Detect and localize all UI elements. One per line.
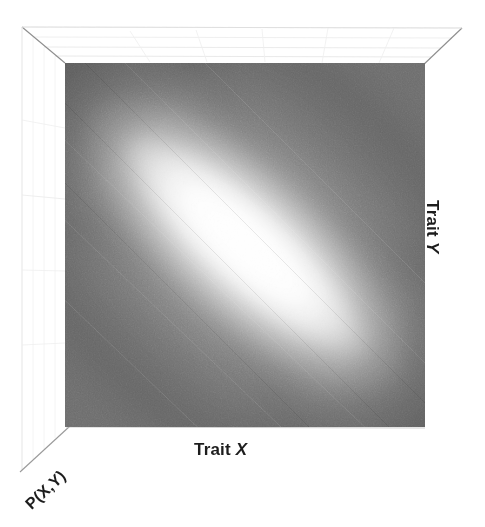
x-axis-label-prefix: Trait bbox=[194, 440, 236, 459]
edge-front-left-z-axis bbox=[20, 426, 70, 472]
surface-grain-texture bbox=[65, 63, 425, 427]
edge-back-top bbox=[22, 27, 462, 28]
y-axis-label-var: Y bbox=[423, 242, 442, 254]
back-wall-gridlines bbox=[22, 27, 462, 63]
y-axis-label-prefix: Trait bbox=[423, 200, 442, 242]
x-axis-label-var: X bbox=[236, 440, 248, 459]
x-axis-label: Trait X bbox=[194, 440, 247, 460]
y-axis-label: Trait Y bbox=[422, 200, 442, 253]
left-wall-gridlines bbox=[22, 27, 65, 470]
surface-plot-figure: Trait X Trait Y P(X,Y) bbox=[0, 0, 485, 527]
edge-back-left bbox=[22, 27, 65, 63]
density-surface bbox=[65, 63, 425, 427]
edge-front-bottom bbox=[66, 427, 425, 428]
